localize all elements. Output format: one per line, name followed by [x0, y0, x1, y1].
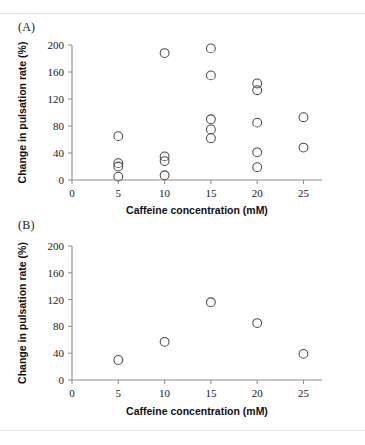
top-divider: [0, 13, 365, 14]
panel-a: (A) 040801201602000510152025Caffeine con…: [0, 18, 365, 218]
panel-b: (B) 040801201602000510152025Caffeine con…: [0, 216, 365, 428]
y-tick-label: 120: [48, 294, 65, 306]
x-axis-title: Caffeine concentration (mM): [126, 405, 268, 417]
y-tick-label: 80: [53, 320, 65, 332]
data-point: [253, 163, 262, 172]
x-tick-label: 20: [252, 187, 264, 199]
x-tick-label: 5: [116, 187, 122, 199]
x-tick-label: 10: [159, 387, 171, 399]
x-tick-label: 20: [252, 387, 264, 399]
panel-b-plot: 040801201602000510152025Caffeine concent…: [0, 216, 365, 428]
y-tick-label: 80: [53, 120, 65, 132]
data-point: [114, 356, 123, 365]
y-tick-label: 120: [48, 93, 65, 105]
bottom-divider: [0, 430, 365, 431]
x-tick-label: 0: [69, 387, 75, 399]
y-tick-label: 200: [48, 240, 65, 252]
y-tick-label: 0: [59, 174, 65, 186]
data-point: [206, 44, 215, 53]
y-tick-label: 0: [59, 374, 65, 386]
x-axis-title: Caffeine concentration (mM): [126, 204, 268, 216]
data-point: [206, 298, 215, 307]
y-tick-label: 160: [48, 267, 65, 279]
x-tick-label: 0: [69, 187, 75, 199]
y-tick-label: 200: [48, 39, 65, 51]
y-tick-label: 160: [48, 66, 65, 78]
data-point: [253, 118, 262, 127]
data-point: [206, 71, 215, 80]
data-point: [299, 349, 308, 358]
y-axis-title: Change in pulsation rate (%): [16, 42, 28, 184]
figure-page: (A) 040801201602000510152025Caffeine con…: [0, 0, 365, 445]
x-tick-label: 10: [159, 187, 171, 199]
x-tick-label: 25: [298, 387, 310, 399]
y-axis-title: Change in pulsation rate (%): [16, 242, 28, 384]
x-tick-label: 5: [116, 387, 122, 399]
data-point: [114, 132, 123, 141]
data-point: [299, 113, 308, 122]
y-tick-label: 40: [53, 147, 65, 159]
panel-a-plot: 040801201602000510152025Caffeine concent…: [0, 18, 365, 218]
x-tick-label: 15: [205, 187, 217, 199]
data-point: [160, 337, 169, 346]
data-point: [253, 86, 262, 95]
x-tick-label: 15: [205, 387, 217, 399]
data-point: [206, 125, 215, 134]
data-point: [299, 143, 308, 152]
data-point: [253, 319, 262, 328]
data-point: [206, 134, 215, 143]
data-point: [160, 171, 169, 180]
y-tick-label: 40: [53, 347, 65, 359]
data-point: [206, 115, 215, 124]
data-point: [160, 49, 169, 58]
data-point: [253, 148, 262, 157]
x-tick-label: 25: [298, 187, 310, 199]
